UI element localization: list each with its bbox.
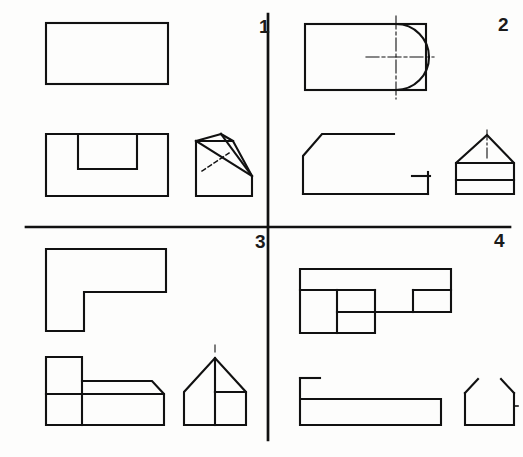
quadrant-number-1: 1 [259, 17, 270, 36]
quadrant-number-4: 4 [494, 231, 505, 250]
drawing-sheet [0, 0, 523, 457]
drawing-canvas [0, 0, 523, 457]
quadrant-number-3: 3 [255, 232, 266, 251]
sheet-background [0, 0, 523, 457]
quadrant-number-2: 2 [498, 15, 509, 34]
